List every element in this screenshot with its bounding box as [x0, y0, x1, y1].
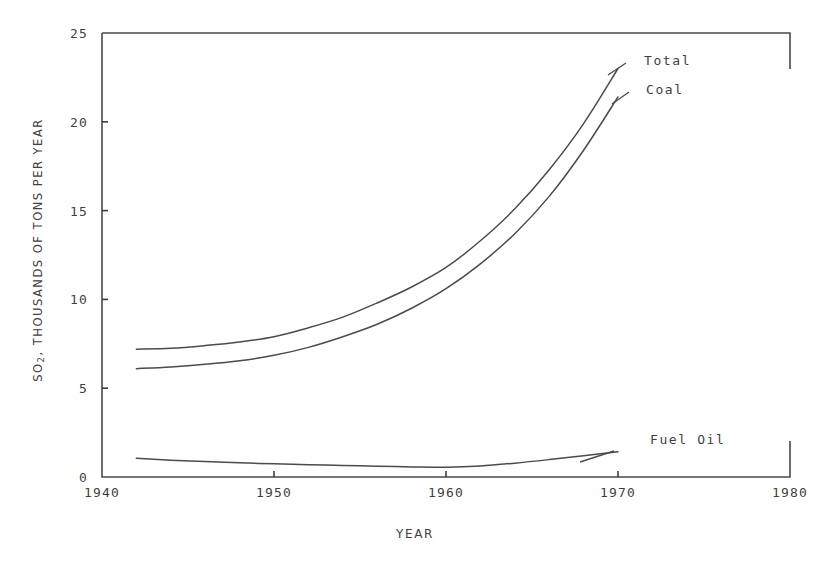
- x-tick-label-1950: 1950: [256, 485, 292, 500]
- y-axis-title-prefix: SO: [31, 362, 45, 381]
- series-label-total: Total: [644, 53, 691, 68]
- series-label-fuel-oil: Fuel Oil: [650, 432, 725, 447]
- y-tick-label-0: 0: [44, 470, 88, 485]
- x-tick-label-1960: 1960: [428, 485, 464, 500]
- tick-marks: [102, 122, 618, 477]
- y-tick-label-5: 5: [44, 381, 88, 396]
- total-leader-line: [608, 63, 626, 75]
- y-axis-title: SO2, THOUSANDS OF TONS PER YEAR: [31, 118, 45, 381]
- x-tick-label-1980: 1980: [772, 485, 808, 500]
- series-lines: [136, 69, 618, 468]
- axes: [102, 33, 790, 477]
- x-tick-label-1940: 1940: [84, 485, 120, 500]
- y-tick-label-10: 10: [44, 292, 88, 307]
- y-axis-title-subscript: 2: [36, 355, 46, 362]
- y-axis-title-rest: , THOUSANDS OF TONS PER YEAR: [31, 118, 45, 355]
- series-label-leaders: [580, 63, 629, 462]
- y-tick-label-15: 15: [44, 203, 88, 218]
- coal-leader-line: [612, 92, 629, 104]
- series-line-coal: [136, 97, 618, 369]
- y-tick-label-25: 25: [44, 26, 88, 41]
- series-label-coal: Coal: [646, 82, 684, 97]
- chart-canvas: [0, 0, 830, 568]
- axis-frame: [102, 33, 790, 477]
- fuel-oil-leader-line: [580, 451, 614, 462]
- x-axis-title: YEAR: [0, 527, 830, 541]
- so2-emissions-line-chart: 19401950196019701980 0510152025 TotalCoa…: [0, 0, 830, 568]
- series-line-fuel-oil: [136, 452, 618, 467]
- y-tick-label-20: 20: [44, 114, 88, 129]
- y-axis-title-wrapper: SO2, THOUSANDS OF TONS PER YEAR: [26, 0, 50, 500]
- x-tick-label-1970: 1970: [600, 485, 636, 500]
- series-line-total: [136, 69, 618, 350]
